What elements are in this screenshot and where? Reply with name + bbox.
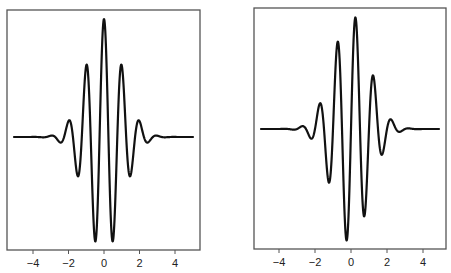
x-tick-label: 4 [420, 256, 426, 268]
right-x-axis-ticks: −4−2024 [273, 249, 426, 268]
left-plot-frame [7, 10, 200, 250]
x-tick-label: −4 [273, 256, 286, 268]
right-plot-svg: −4−2024 [225, 0, 451, 273]
x-tick-label: −2 [309, 256, 322, 268]
x-tick-label: 2 [384, 256, 390, 268]
right-wavelet-curve [261, 17, 439, 240]
x-tick-label: 0 [348, 256, 354, 268]
left-plot-panel: −4−2024 [0, 0, 225, 273]
left-x-axis-ticks: −4−2024 [27, 250, 178, 269]
x-tick-label: 0 [101, 257, 107, 269]
right-plot-panel: −4−2024 [225, 0, 451, 273]
x-tick-label: −2 [62, 257, 75, 269]
x-tick-label: −4 [27, 257, 40, 269]
x-tick-label: 2 [136, 257, 142, 269]
left-plot-svg: −4−2024 [0, 0, 225, 273]
x-tick-label: 4 [172, 257, 178, 269]
left-wavelet-curve [14, 19, 193, 241]
